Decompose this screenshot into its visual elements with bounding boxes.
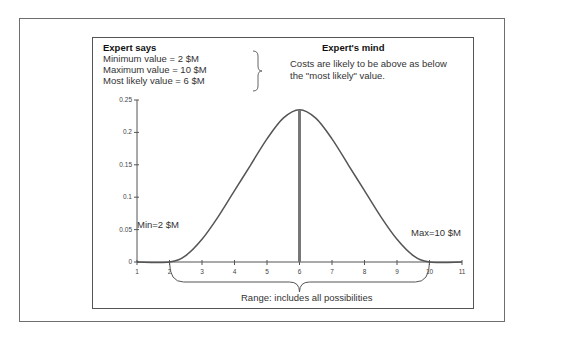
y-tick-label: 0 (128, 258, 132, 265)
x-tick-label: 4 (233, 268, 237, 275)
expert-brace (253, 51, 262, 91)
x-tick-label: 3 (200, 268, 204, 275)
y-tick-label: 0.2 (123, 128, 132, 135)
x-tick-label: 7 (330, 268, 334, 275)
x-tick-label: 5 (265, 268, 269, 275)
y-tick-label: 0.25 (119, 96, 132, 103)
y-tick-label: 0.05 (119, 226, 132, 233)
x-tick-label: 6 (298, 268, 302, 275)
x-tick-label: 1 (135, 268, 139, 275)
y-tick-label: 0.15 (119, 161, 132, 168)
x-tick-label: 10 (426, 268, 434, 275)
y-tick-label: 0.1 (123, 193, 132, 200)
range-brace (170, 262, 430, 292)
x-tick-label: 8 (363, 268, 367, 275)
chart-svg: 00.050.10.150.20.251234567891011 (0, 0, 565, 346)
x-tick-label: 9 (395, 268, 399, 275)
x-tick-label: 11 (459, 268, 466, 275)
